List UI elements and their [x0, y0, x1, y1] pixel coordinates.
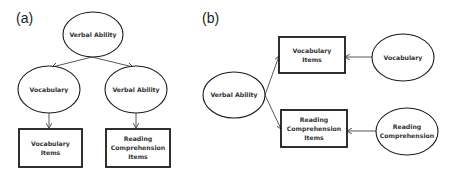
node-verbal-ability-top: Verbal Ability	[63, 12, 123, 57]
edge-verbal-to-reading-items	[265, 95, 281, 129]
node-label: Vocabulary	[30, 86, 69, 94]
node-vocabulary: Vocabulary	[372, 34, 434, 81]
node-verbal-ability-mid: Verbal Ability	[105, 66, 167, 113]
edge-verbal-to-vocabulary	[52, 57, 92, 67]
node-label: Reading	[300, 116, 329, 124]
node-vocabulary-items: Vocabulary Items	[279, 37, 345, 73]
diagram-canvas: (a) Verbal Ability Vocabulary Verbal Abi…	[0, 0, 455, 174]
edge-verbal-to-verbal	[92, 57, 133, 67]
node-verbal-ability: Verbal Ability	[203, 72, 265, 118]
node-vocabulary: Vocabulary	[18, 66, 80, 113]
node-label: Vocabulary	[293, 47, 332, 55]
node-label: Items	[304, 134, 324, 141]
node-label: Items	[128, 153, 148, 160]
node-label: Verbal Ability	[69, 31, 116, 39]
node-label: Verbal Ability	[210, 91, 257, 99]
node-label: Reading	[393, 123, 422, 131]
edge-verbal-to-vocab-items	[265, 56, 279, 95]
node-vocabulary-items: Vocabulary Items	[19, 129, 82, 167]
node-reading-comprehension-items: Reading Comprehension Items	[281, 110, 347, 147]
node-label: Comprehension	[111, 144, 165, 152]
node-label: Comprehension	[380, 132, 434, 140]
panel-a: (a) Verbal Ability Vocabulary Verbal Abi…	[16, 10, 170, 167]
node-label: Verbal Ability	[112, 86, 159, 94]
panel-a-label: (a)	[16, 10, 33, 26]
node-label: Vocabulary	[31, 140, 70, 148]
node-label: Comprehension	[287, 125, 341, 133]
node-label: Items	[302, 56, 322, 63]
node-label: Vocabulary	[384, 54, 423, 62]
panel-b: (b) Verbal Ability Vocabulary Items Read…	[202, 10, 438, 155]
node-reading-comprehension: Reading Comprehension	[376, 108, 438, 155]
node-reading-comprehension-items: Reading Comprehension Items	[106, 129, 170, 167]
node-label: Reading	[124, 135, 153, 143]
node-label: Items	[41, 149, 61, 156]
panel-b-label: (b)	[202, 10, 219, 26]
